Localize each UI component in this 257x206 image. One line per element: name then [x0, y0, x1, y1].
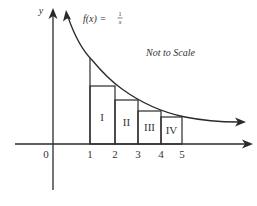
- not-to-scale-note: Not to Scale: [145, 47, 195, 58]
- x-tick-5: 5: [179, 148, 185, 160]
- rect-label-II: II: [123, 116, 131, 128]
- function-denominator: x: [118, 19, 122, 25]
- x-tick-2: 2: [112, 148, 118, 160]
- function-numerator: 1: [119, 11, 122, 17]
- function-label: f(x) =: [83, 13, 106, 25]
- y-axis-label: y: [38, 5, 44, 16]
- rect-label-III: III: [144, 121, 155, 133]
- x-tick-1: 1: [87, 148, 93, 160]
- curve-top-arrow-icon: [63, 10, 71, 22]
- diagram-canvas: I II III IV 0 1 2 3 4 5 y f(x) = 1 x Not…: [0, 0, 257, 206]
- origin-label: 0: [43, 148, 49, 160]
- x-tick-4: 4: [158, 148, 164, 160]
- curve-1-over-x: [68, 17, 238, 122]
- rect-label-IV: IV: [166, 124, 178, 136]
- x-tick-3: 3: [135, 148, 141, 160]
- rect-label-I: I: [100, 111, 104, 123]
